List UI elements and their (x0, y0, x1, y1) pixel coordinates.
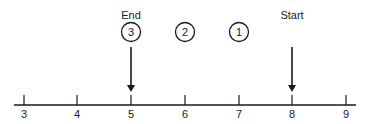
tick-label-6: 6 (182, 108, 188, 120)
tick-label-5: 5 (128, 108, 134, 120)
start-arrow-icon (288, 47, 296, 92)
axis-ticks (24, 95, 346, 105)
svg-text:3: 3 (128, 26, 134, 38)
tick-label-8: 8 (289, 108, 295, 120)
end-label: End (121, 9, 141, 21)
step-circle-2: 2 (176, 23, 195, 42)
svg-text:1: 1 (236, 26, 242, 38)
svg-text:2: 2 (182, 26, 188, 38)
tick-label-4: 4 (74, 108, 80, 120)
end-arrow-icon (127, 47, 135, 92)
start-label: Start (280, 9, 303, 21)
axis-tick-labels: 3 4 5 6 7 8 9 (21, 108, 349, 120)
step-circle-3: 3 (122, 23, 141, 42)
tick-label-7: 7 (236, 108, 242, 120)
step-circle-1: 1 (230, 23, 249, 42)
tick-label-9: 9 (343, 108, 349, 120)
tick-label-3: 3 (21, 108, 27, 120)
number-line-diagram: 3 4 5 6 7 8 9 End Start 3 2 1 (0, 0, 366, 124)
